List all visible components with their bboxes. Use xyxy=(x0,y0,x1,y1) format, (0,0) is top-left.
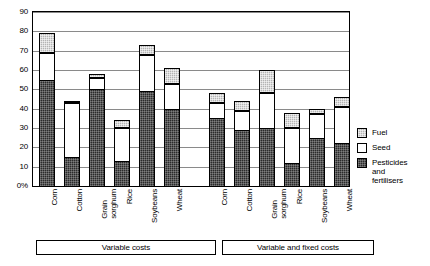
bar-segment-seed xyxy=(284,128,300,163)
legend-swatch-fuel-icon xyxy=(357,128,367,138)
bar-segment-seed xyxy=(139,55,155,92)
bar-segment-fuel xyxy=(39,33,55,52)
legend-item-fuel[interactable]: Fuel xyxy=(357,128,429,138)
x-axis-label-3: Rice xyxy=(126,189,135,204)
bar-segment-seed xyxy=(209,103,225,118)
legend-swatch-pest-icon xyxy=(357,158,367,168)
bar-segment-pest xyxy=(209,118,225,186)
bar-segment-pest xyxy=(234,130,250,186)
bar-2 xyxy=(89,74,105,186)
y-axis-tick-90: 90 xyxy=(20,8,29,16)
x-axis-labels: CornCottonGrain sorghumRiceSoybeansWheat… xyxy=(33,189,349,229)
bar-segment-pest xyxy=(284,163,300,186)
legend-item-seed[interactable]: Seed xyxy=(357,143,429,153)
bar-segment-fuel xyxy=(164,68,180,83)
bar-segment-pest xyxy=(39,80,55,186)
bar-segment-pest xyxy=(309,138,325,186)
bar-9 xyxy=(284,113,300,186)
y-axis-tick-0: 0% xyxy=(17,182,28,190)
x-axis-label-11: Wheat xyxy=(346,189,355,211)
x-axis-label-2: Grain sorghum xyxy=(101,189,118,219)
bar-segment-seed xyxy=(64,103,80,157)
bar-segment-fuel xyxy=(139,45,155,55)
bar-segment-pest xyxy=(139,91,155,186)
bar-segment-fuel xyxy=(284,113,300,128)
bar-0 xyxy=(39,33,55,186)
bar-segment-fuel xyxy=(234,101,250,111)
bar-segment-fuel xyxy=(114,120,130,128)
y-axis-tick-20: 20 xyxy=(20,143,29,151)
bar-segment-seed xyxy=(334,107,350,144)
y-axis-tick-50: 50 xyxy=(20,85,29,93)
bar-segment-fuel xyxy=(259,70,275,93)
x-axis-label-5: Wheat xyxy=(176,189,185,211)
legend-item-pest[interactable]: Pesticides and fertilisers xyxy=(357,158,429,185)
bar-segment-pest xyxy=(64,157,80,186)
bar-6 xyxy=(209,93,225,186)
y-axis-tick-40: 40 xyxy=(20,105,29,113)
bar-segment-pest xyxy=(334,143,350,186)
x-axis-label-8: Grain sorghum xyxy=(271,189,288,219)
bar-segment-seed xyxy=(259,93,275,128)
bar-segment-seed xyxy=(89,78,105,90)
bar-segment-seed xyxy=(164,84,180,109)
y-axis-tick-60: 60 xyxy=(20,66,29,74)
bar-11 xyxy=(334,97,350,186)
bar-10 xyxy=(309,109,325,186)
x-axis-label-4: Soybeans xyxy=(151,189,160,223)
bar-segment-seed xyxy=(234,111,250,130)
y-axis-tick-30: 30 xyxy=(20,124,29,132)
x-axis-label-10: Soybeans xyxy=(321,189,330,223)
x-axis-label-0: Corn xyxy=(51,189,60,206)
y-axis-tick-10: 10 xyxy=(20,163,29,171)
y-axis-tick-80: 80 xyxy=(20,27,29,35)
group-caption-1: Variable and fixed costs xyxy=(222,240,374,255)
x-axis-label-6: Corn xyxy=(221,189,230,206)
chart-legend: FuelSeedPesticides and fertilisers xyxy=(357,128,429,190)
bar-4 xyxy=(139,45,155,186)
x-axis-label-7: Cotton xyxy=(246,189,255,211)
bar-3 xyxy=(114,120,130,186)
bar-series-container xyxy=(33,12,349,186)
bar-1 xyxy=(64,101,80,186)
chart-figure: 0%102030405060708090 CornCottonGrain sor… xyxy=(0,0,430,266)
legend-swatch-seed-icon xyxy=(357,143,367,153)
bar-segment-pest xyxy=(164,109,180,186)
bar-segment-seed xyxy=(309,114,325,137)
legend-label-fuel: Fuel xyxy=(372,128,387,137)
bar-7 xyxy=(234,101,250,186)
bar-5 xyxy=(164,68,180,186)
group-caption-0: Variable costs xyxy=(36,240,216,255)
bar-segment-pest xyxy=(259,128,275,186)
y-axis-tick-70: 70 xyxy=(20,47,29,55)
bar-segment-fuel xyxy=(209,93,225,103)
legend-label-seed: Seed xyxy=(372,143,390,152)
bar-8 xyxy=(259,70,275,186)
legend-label-pest: Pesticides and fertilisers xyxy=(372,158,407,185)
bar-segment-pest xyxy=(114,161,130,186)
bar-segment-seed xyxy=(114,128,130,161)
bar-segment-pest xyxy=(89,89,105,186)
bar-segment-fuel xyxy=(334,97,350,107)
x-axis-label-9: Rice xyxy=(296,189,305,204)
y-axis: 0%102030405060708090 xyxy=(0,0,32,198)
x-axis-label-1: Cotton xyxy=(76,189,85,211)
bar-segment-seed xyxy=(39,53,55,80)
